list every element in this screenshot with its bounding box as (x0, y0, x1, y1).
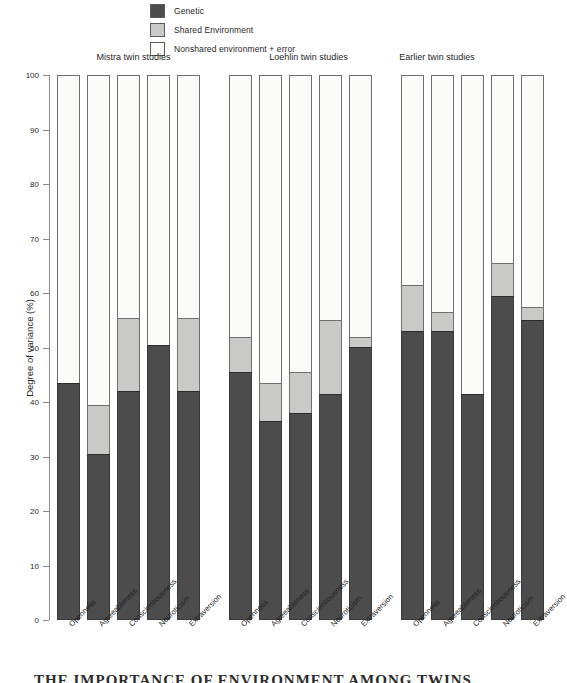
segment-nonshared-environment (147, 75, 170, 345)
segment-nonshared-environment (521, 75, 544, 307)
y-tick-mark (43, 620, 49, 621)
segment-genetic (57, 383, 80, 620)
y-tick-mark (43, 566, 49, 567)
segment-genetic (259, 421, 282, 620)
y-tick-mark (43, 184, 49, 185)
bar-mistra-extraversion (177, 75, 200, 620)
segment-shared-environment (349, 337, 372, 348)
segment-shared-environment (319, 320, 342, 394)
bar-loehlin-openness (229, 75, 252, 620)
segment-shared-environment (229, 337, 252, 372)
segment-nonshared-environment (491, 75, 514, 263)
segment-shared-environment (401, 285, 424, 331)
y-tick-mark (43, 130, 49, 131)
bar-loehlin-conscientiousness (289, 75, 312, 620)
figure-caption: THE IMPORTANCE OF ENVIRONMENT AMONG TWIN… (0, 667, 506, 683)
group-title-loehlin: Loehlin twin studies (232, 52, 385, 62)
segment-shared-environment (259, 383, 282, 421)
legend-item-shared-environment: Shared Environment (150, 22, 295, 37)
segment-nonshared-environment (461, 75, 484, 394)
segment-genetic (461, 394, 484, 620)
y-tick-label: 40 (13, 398, 39, 407)
segment-nonshared-environment (401, 75, 424, 285)
segment-shared-environment (87, 405, 110, 454)
y-tick-label: 20 (13, 507, 39, 516)
bar-mistra-neuroticism (147, 75, 170, 620)
group-title-mistra: Mistra twin studies (57, 52, 210, 62)
segment-genetic (117, 391, 140, 620)
segment-nonshared-environment (229, 75, 252, 337)
bar-earlier-openness (401, 75, 424, 620)
segment-nonshared-environment (87, 75, 110, 405)
segment-nonshared-environment (259, 75, 282, 383)
y-tick-label: 10 (13, 561, 39, 570)
bar-loehlin-extraversion (349, 75, 372, 620)
segment-genetic (87, 454, 110, 620)
chart-plot-area: Degree of variance (%) 100 90 80 70 60 5… (57, 75, 497, 620)
y-tick-label: 30 (13, 452, 39, 461)
y-tick-label: 0 (13, 616, 39, 625)
segment-genetic (491, 296, 514, 620)
segment-nonshared-environment (57, 75, 80, 383)
bar-loehlin-neuroticism (319, 75, 342, 620)
y-axis-line (49, 75, 50, 620)
segment-nonshared-environment (177, 75, 200, 318)
segment-nonshared-environment (117, 75, 140, 318)
y-tick-label: 100 (13, 71, 39, 80)
y-tick-mark (43, 348, 49, 349)
segment-shared-environment (521, 307, 544, 321)
y-tick-label: 70 (13, 234, 39, 243)
y-tick-mark (43, 402, 49, 403)
bar-earlier-neuroticism (491, 75, 514, 620)
bar-loehlin-agreeableness (259, 75, 282, 620)
y-tick-label: 60 (13, 289, 39, 298)
segment-nonshared-environment (319, 75, 342, 320)
y-tick-mark (43, 75, 49, 76)
segment-genetic (521, 320, 544, 620)
y-tick-label: 80 (13, 180, 39, 189)
segment-shared-environment (289, 372, 312, 413)
bar-earlier-agreeableness (431, 75, 454, 620)
segment-genetic (229, 372, 252, 620)
bar-earlier-conscientiousness (461, 75, 484, 620)
segment-nonshared-environment (431, 75, 454, 312)
segment-shared-environment (491, 263, 514, 296)
segment-nonshared-environment (349, 75, 372, 337)
group-title-earlier: Earlier twin studies (367, 52, 507, 62)
y-tick-mark (43, 511, 49, 512)
legend-item-genetic: Genetic (150, 3, 295, 18)
bar-earlier-extraversion (521, 75, 544, 620)
y-tick-label: 50 (13, 343, 39, 352)
legend-swatch-genetic (150, 4, 165, 18)
segment-genetic (431, 331, 454, 620)
segment-shared-environment (431, 312, 454, 331)
legend-swatch-shared-environment (150, 23, 165, 37)
bar-mistra-openness (57, 75, 80, 620)
chart-legend: Genetic Shared Environment Nonshared env… (150, 3, 295, 56)
y-tick-label: 90 (13, 125, 39, 134)
legend-label-shared-environment: Shared Environment (174, 25, 253, 35)
segment-genetic (147, 345, 170, 620)
segment-shared-environment (177, 318, 200, 392)
y-tick-mark (43, 457, 49, 458)
segment-genetic (177, 391, 200, 620)
segment-nonshared-environment (289, 75, 312, 372)
bar-mistra-agreeableness (87, 75, 110, 620)
y-tick-mark (43, 293, 49, 294)
segment-shared-environment (117, 318, 140, 392)
segment-genetic (401, 331, 424, 620)
segment-genetic (349, 347, 372, 620)
legend-label-genetic: Genetic (174, 6, 204, 16)
bar-mistra-conscientiousness (117, 75, 140, 620)
y-tick-mark (43, 239, 49, 240)
